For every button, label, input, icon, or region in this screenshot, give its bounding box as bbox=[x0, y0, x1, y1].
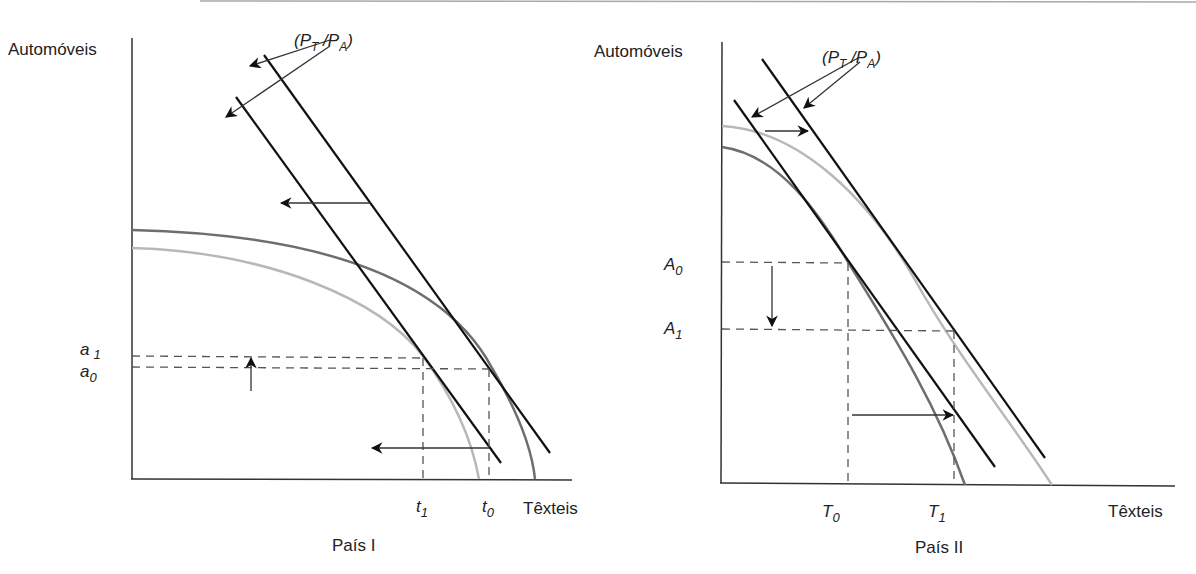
tick-T1: T1 bbox=[928, 502, 946, 525]
A0-guide bbox=[722, 262, 848, 263]
price-line-initial bbox=[264, 55, 550, 453]
tick-a1: a1 bbox=[80, 340, 101, 362]
panel-pais-1: Automóveis Têxteis País I (PT /PA) a1 a0… bbox=[8, 31, 578, 555]
tick-A0: A0 bbox=[663, 255, 683, 278]
price-line-new bbox=[236, 97, 501, 463]
tick-t1: t1 bbox=[416, 497, 428, 520]
y-axis-label: Automóveis bbox=[594, 42, 683, 61]
a1-guide bbox=[132, 356, 423, 358]
tick-T0: T0 bbox=[822, 502, 840, 525]
ppf-dark-curve bbox=[132, 230, 535, 479]
tick-t0: t0 bbox=[482, 497, 495, 520]
panel-title: País I bbox=[332, 536, 375, 555]
a0-guide bbox=[132, 367, 489, 369]
ppf-dark-curve bbox=[722, 147, 965, 485]
price-label-arrow-new bbox=[804, 62, 860, 108]
price-line-new bbox=[762, 59, 1045, 458]
panel-pais-2: Automóveis Têxteis País II (PT /PA) A0 A… bbox=[594, 42, 1175, 557]
tick-A1: A1 bbox=[663, 319, 683, 342]
x-axis-label: Têxteis bbox=[523, 499, 578, 518]
x-axis-label: Têxteis bbox=[1108, 502, 1163, 521]
tick-a0: a0 bbox=[80, 362, 97, 385]
price-ratio-label: (PT /PA) bbox=[822, 48, 881, 71]
y-axis-label: Automóveis bbox=[8, 40, 97, 59]
y-axis bbox=[721, 42, 722, 483]
A1-guide bbox=[722, 329, 954, 331]
x-axis bbox=[720, 483, 1175, 486]
price-line-initial bbox=[734, 100, 995, 467]
top-rule bbox=[200, 1, 1196, 2]
x-axis bbox=[131, 479, 572, 480]
figure-canvas: Automóveis Têxteis País I (PT /PA) a1 a0… bbox=[0, 0, 1196, 574]
panel-title: País II bbox=[915, 538, 963, 557]
